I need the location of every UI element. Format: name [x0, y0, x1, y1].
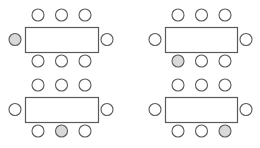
chair	[196, 9, 208, 21]
chair	[240, 34, 252, 46]
chair-highlighted	[9, 34, 21, 46]
chair	[32, 125, 44, 137]
chair	[149, 104, 161, 116]
chair	[101, 104, 113, 116]
chair	[172, 125, 184, 137]
chair	[32, 55, 44, 67]
table	[26, 28, 99, 53]
chair	[101, 34, 113, 46]
chair	[196, 125, 208, 137]
chair	[172, 9, 184, 21]
table-group-bottom-left	[9, 79, 113, 137]
table-group-bottom-right	[149, 79, 252, 137]
chair	[219, 9, 231, 21]
table-group-top-right	[149, 9, 252, 67]
chair	[9, 104, 21, 116]
chair-highlighted	[56, 125, 68, 137]
table-group-top-left	[9, 9, 113, 67]
chair	[79, 9, 91, 21]
chair	[79, 55, 91, 67]
table	[166, 28, 238, 53]
chair	[196, 55, 208, 67]
chair	[219, 79, 231, 91]
chair	[172, 79, 184, 91]
chair	[32, 79, 44, 91]
chair	[196, 79, 208, 91]
chair	[149, 34, 161, 46]
table	[26, 98, 99, 123]
chair	[219, 55, 231, 67]
chair	[56, 79, 68, 91]
chair	[56, 55, 68, 67]
chair	[79, 79, 91, 91]
chair	[56, 9, 68, 21]
seating-diagram	[0, 0, 260, 148]
chair	[79, 125, 91, 137]
table	[166, 98, 238, 123]
chair	[32, 9, 44, 21]
chair	[240, 104, 252, 116]
chair-highlighted	[219, 125, 231, 137]
chair-highlighted	[172, 55, 184, 67]
